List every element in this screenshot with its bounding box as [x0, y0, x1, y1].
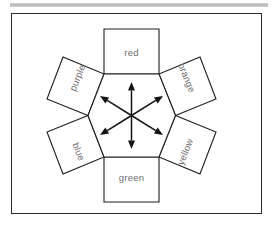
face-label-red: red: [124, 47, 138, 58]
face-label-green: green: [119, 172, 144, 183]
hexagon-color-diagram: red orange yellow green blue purple: [0, 0, 273, 226]
page-root: red orange yellow green blue purple: [0, 0, 273, 226]
